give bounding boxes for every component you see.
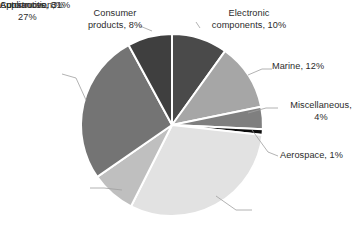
pie-label-aerospace: Aerospace, 1% xyxy=(280,150,362,162)
pie-label-marine: Marine, 12% xyxy=(272,61,360,73)
leader-line-marine xyxy=(248,69,272,75)
pie-chart-figure: Consumer products, 8% Electronic compone… xyxy=(0,0,364,232)
pie-label-electronic-components: Electronic components, 10% xyxy=(196,8,302,31)
pie-label-miscellaneous: Miscellaneous, 4% xyxy=(280,100,362,123)
leader-line-construction xyxy=(62,74,86,100)
pie-label-consumer-products: Consumer products, 8% xyxy=(72,8,158,31)
pie-label-construction: Construction, 27% xyxy=(0,0,55,23)
